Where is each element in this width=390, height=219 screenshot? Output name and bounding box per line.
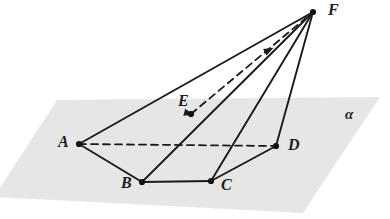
vertex-dot-B: [139, 179, 145, 185]
figure-canvas: [0, 0, 390, 219]
vertex-label-B: B: [121, 175, 132, 191]
vertex-label-A: A: [58, 134, 69, 150]
plane-label-alpha: α: [345, 107, 353, 122]
vertex-label-E: E: [178, 93, 189, 109]
vertex-label-D: D: [288, 137, 300, 153]
arrow-on-EF: [263, 44, 275, 55]
vertex-label-F: F: [328, 2, 339, 18]
vertex-dot-E: [188, 111, 194, 117]
edge-BC: [142, 181, 211, 182]
vertex-dot-F: [310, 9, 316, 15]
geometry-figure: α ABCDEF: [0, 0, 390, 219]
vertex-dot-A: [76, 141, 82, 147]
vertex-dot-D: [273, 143, 279, 149]
vertex-label-C: C: [221, 177, 232, 193]
vertex-dot-C: [208, 178, 214, 184]
